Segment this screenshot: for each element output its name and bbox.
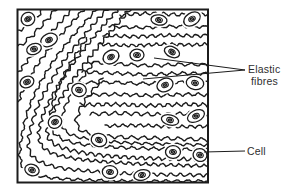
cell-blob bbox=[127, 47, 146, 64]
elastic-fibre-line bbox=[37, 7, 211, 167]
elastic-fibre-line bbox=[103, 33, 211, 38]
label-cell: Cell bbox=[247, 145, 266, 157]
elastic-tissue-diagram: Elastic fibres Cell bbox=[0, 0, 293, 192]
cell-blob bbox=[99, 163, 120, 182]
elastic-fibre-line bbox=[80, 102, 211, 107]
label-elastic-fibres-line2: fibres bbox=[251, 75, 278, 87]
cell-blob bbox=[97, 44, 124, 70]
elastic-tissue-figure: Elastic fibres Cell bbox=[0, 0, 293, 192]
label-elastic-fibres-line1: Elastic bbox=[248, 63, 280, 75]
elastic-fibre-line bbox=[105, 124, 211, 128]
leader-line-cell bbox=[204, 151, 245, 152]
cell-blob bbox=[182, 104, 209, 128]
elastic-fibre-line bbox=[84, 93, 211, 98]
elastic-fibre-line bbox=[99, 43, 211, 48]
